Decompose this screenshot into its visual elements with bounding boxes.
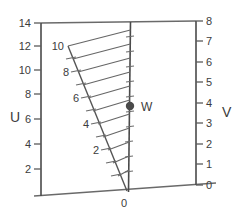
u-tick-label-10: 10 bbox=[19, 64, 31, 76]
v-tick-label-6: 6 bbox=[206, 56, 212, 68]
u-tick-label-4: 4 bbox=[25, 138, 31, 150]
hatch-line bbox=[88, 86, 130, 98]
hatch-line bbox=[98, 114, 130, 124]
hatch-line bbox=[113, 156, 129, 163]
nomogram-svg: 14 12 10 8 6 4 2 U 8 7 6 5 4 3 bbox=[0, 0, 242, 218]
v-tick-label-8: 8 bbox=[206, 15, 212, 27]
w-tick-7 bbox=[126, 81, 134, 82]
diagonal-scale: 10 8 6 4 2 bbox=[52, 30, 131, 191]
nomogram-chart: 14 12 10 8 6 4 2 U 8 7 6 5 4 3 bbox=[0, 0, 242, 218]
w-marker-dot bbox=[126, 102, 134, 110]
v-axis-name: V bbox=[222, 104, 232, 120]
hatch-line bbox=[108, 142, 129, 150]
v-axis: 8 7 6 5 4 3 2 1 0 V bbox=[196, 15, 232, 191]
diag-tick-label-6: 6 bbox=[73, 92, 79, 104]
w-marker-label: W bbox=[141, 100, 153, 114]
w-tick-10 bbox=[126, 36, 134, 37]
hatch-line bbox=[83, 72, 130, 85]
diag-tick-label-2: 2 bbox=[93, 144, 99, 156]
diag-tick-label-8: 8 bbox=[63, 66, 69, 78]
w-tick-4 bbox=[126, 126, 134, 127]
hatch-line bbox=[103, 128, 130, 137]
u-tick-label-14: 14 bbox=[19, 17, 31, 29]
hatch-line bbox=[68, 30, 130, 46]
u-axis-name: U bbox=[10, 109, 20, 125]
hatch-line bbox=[93, 100, 130, 111]
v-tick-label-0: 0 bbox=[206, 179, 212, 191]
frame-top-line bbox=[41, 21, 196, 23]
v-tick-label-2: 2 bbox=[206, 138, 212, 150]
w-tick-9 bbox=[126, 51, 134, 52]
u-tick-label-2: 2 bbox=[25, 163, 31, 175]
hatch-line bbox=[78, 58, 130, 72]
v-tick-label-4: 4 bbox=[206, 97, 212, 109]
u-tick-label-8: 8 bbox=[25, 88, 31, 100]
diagonal-scale-line bbox=[68, 46, 127, 191]
origin-label: 0 bbox=[121, 197, 127, 209]
w-tick-8 bbox=[126, 66, 134, 67]
v-tick-label-1: 1 bbox=[206, 158, 212, 170]
diag-tick-label-4: 4 bbox=[83, 118, 89, 130]
hatch-line bbox=[73, 44, 130, 59]
w-tick-5 bbox=[126, 111, 134, 112]
u-tick-label-6: 6 bbox=[25, 113, 31, 125]
v-tick-label-5: 5 bbox=[206, 76, 212, 88]
diag-tick-label-10: 10 bbox=[52, 40, 64, 52]
v-tick-label-3: 3 bbox=[206, 117, 212, 129]
u-axis: 14 12 10 8 6 4 2 U bbox=[10, 17, 41, 196]
u-tick-label-12: 12 bbox=[19, 40, 31, 52]
v-tick-label-7: 7 bbox=[206, 35, 212, 47]
w-tick-6 bbox=[126, 96, 134, 97]
